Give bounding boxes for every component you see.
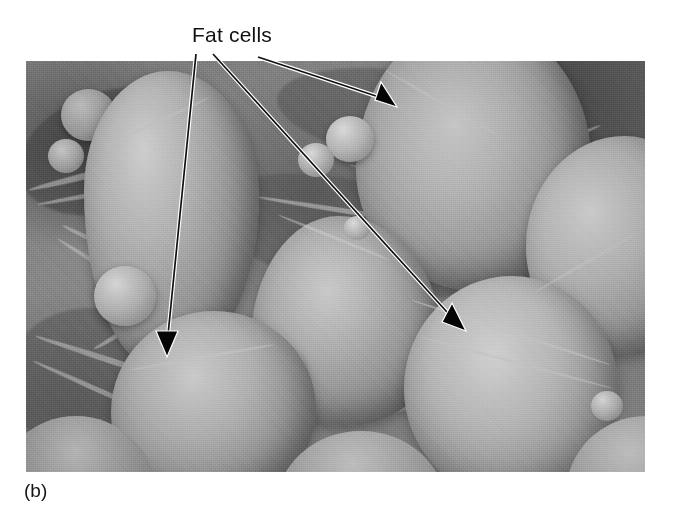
annotation-label-fat-cells: Fat cells [192,23,272,47]
tone-vignette-overlay [26,61,645,472]
figure-caption: (b) [24,480,47,502]
sem-micrograph-image [26,61,645,472]
figure-root: Fat cells [0,0,676,508]
